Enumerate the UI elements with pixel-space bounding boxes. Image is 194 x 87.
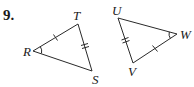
angle-arc-w xyxy=(169,32,170,39)
vertex-label-s: S xyxy=(92,72,99,87)
triangle-uvw xyxy=(118,18,177,63)
vertex-label-u: U xyxy=(112,3,123,18)
triangle-rts-outline xyxy=(33,24,92,71)
vertex-label-w: W xyxy=(180,27,192,42)
vertex-label-v: V xyxy=(128,64,138,79)
congruent-triangles-figure: R T S U V W xyxy=(0,0,194,87)
tick-mark-vw xyxy=(153,46,158,52)
vertex-label-t: T xyxy=(73,8,81,23)
triangle-rts xyxy=(33,24,92,71)
tick-mark-rt xyxy=(54,35,58,41)
triangle-uvw-outline xyxy=(118,18,177,63)
vertex-label-r: R xyxy=(22,44,31,59)
angle-arc-r xyxy=(40,47,41,54)
